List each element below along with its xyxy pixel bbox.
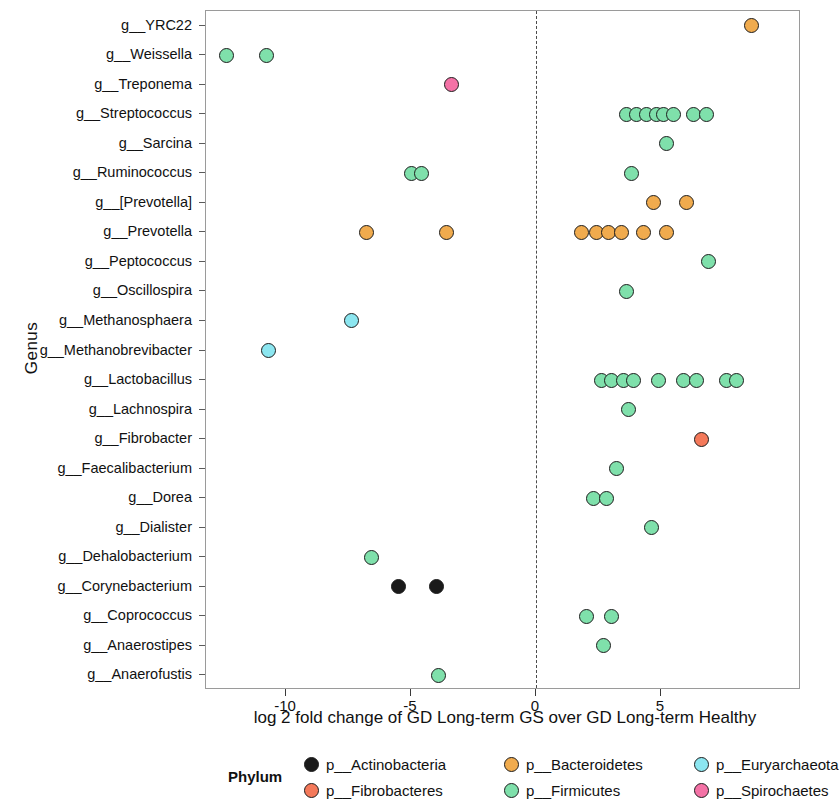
data-point [604,609,619,624]
y-axis-tick-label: g__Lactobacillus [0,372,192,386]
legend: Phylum p__Actinobacteriap__Bacteroidetes… [228,752,805,804]
data-point [429,579,444,594]
data-point [599,491,614,506]
data-point [699,107,714,122]
legend-title: Phylum [228,768,282,785]
data-point [651,373,666,388]
x-axis-tick-mark [660,689,661,696]
y-axis-tick-label: g__[Prevotella] [0,195,192,209]
legend-row: p__Actinobacteriap__Bacteroidetesp__Eury… [304,752,804,776]
data-point [659,136,674,151]
y-axis-tick-label: g__Streptococcus [0,106,192,120]
y-axis-tick-label: g__Lachnospira [0,402,192,416]
data-point [626,373,641,388]
data-point [666,107,681,122]
data-point [344,313,359,328]
data-point [659,225,674,240]
y-axis-tick-label: g__Treponema [0,77,192,91]
data-point [624,166,639,181]
x-axis-title: log 2 fold change of GD Long-term GS ove… [205,708,805,728]
y-axis-tick-label: g__Methanobrevibacter [0,343,192,357]
data-point [579,609,594,624]
legend-item-label: p__Euryarchaeota [716,756,839,773]
data-point [431,668,446,683]
plot-panel [205,10,800,689]
data-point [614,225,629,240]
legend-color-swatch-icon [694,757,709,772]
y-axis-tick-label: g__Anaerostipes [0,638,192,652]
y-axis-tick-label: g__Weissella [0,47,192,61]
y-axis-tick-label: g__Coprococcus [0,608,192,622]
legend-color-swatch-icon [504,783,519,798]
data-point [391,579,406,594]
data-point [414,166,429,181]
data-point [574,225,589,240]
legend-item[interactable]: p__Fibrobacteres [304,782,443,799]
legend-row: p__Fibrobacteresp__Firmicutesp__Spirocha… [304,778,804,802]
legend-color-swatch-icon [504,757,519,772]
data-point [261,343,276,358]
data-point [259,48,274,63]
data-point [596,638,611,653]
y-axis-tick-label: g__Faecalibacterium [0,461,192,475]
y-axis-tick-label: g__YRC22 [0,18,192,32]
data-point [359,225,374,240]
y-axis-tick-label: g__Peptococcus [0,254,192,268]
legend-color-swatch-icon [694,783,709,798]
zero-reference-line [536,11,537,688]
data-point [444,77,459,92]
legend-item[interactable]: p__Spirochaetes [694,782,829,799]
data-point [219,48,234,63]
x-axis-tick-mark [410,689,411,696]
x-axis-tick-mark [535,689,536,696]
legend-item-label: p__Bacteroidetes [526,756,643,773]
data-point [729,373,744,388]
y-axis-tick-labels: g__YRC22g__Weissellag__Treponemag__Strep… [0,0,200,690]
legend-item-label: p__Fibrobacteres [326,782,443,799]
data-point [689,373,704,388]
data-point [694,432,709,447]
legend-color-swatch-icon [304,783,319,798]
y-axis-tick-label: g__Fibrobacter [0,431,192,445]
data-point [609,461,624,476]
data-point [744,18,759,33]
x-axis-tick-mark [285,689,286,696]
y-axis-tick-label: g__Prevotella [0,224,192,238]
y-axis-tick-label: g__Dialister [0,520,192,534]
y-axis-tick-label: g__Ruminococcus [0,165,192,179]
data-point [679,195,694,210]
data-point [701,254,716,269]
legend-item-label: p__Actinobacteria [326,756,446,773]
data-point [636,225,651,240]
data-point [644,520,659,535]
data-point [364,550,379,565]
data-point [621,402,636,417]
legend-item[interactable]: p__Bacteroidetes [504,756,643,773]
y-axis-tick-label: g__Anaerofustis [0,667,192,681]
legend-item[interactable]: p__Euryarchaeota [694,756,839,773]
y-axis-tick-label: g__Methanosphaera [0,313,192,327]
y-axis-tick-label: g__Oscillospira [0,283,192,297]
data-point [646,195,661,210]
legend-item-label: p__Spirochaetes [716,782,829,799]
legend-item-label: p__Firmicutes [526,782,620,799]
data-point [439,225,454,240]
y-axis-tick-label: g__Dehalobacterium [0,549,192,563]
y-axis-tick-label: g__Dorea [0,490,192,504]
legend-item[interactable]: p__Firmicutes [504,782,620,799]
y-axis-tick-label: g__Corynebacterium [0,579,192,593]
y-axis-tick-label: g__Sarcina [0,136,192,150]
data-point [619,284,634,299]
legend-color-swatch-icon [304,757,319,772]
legend-item[interactable]: p__Actinobacteria [304,756,446,773]
